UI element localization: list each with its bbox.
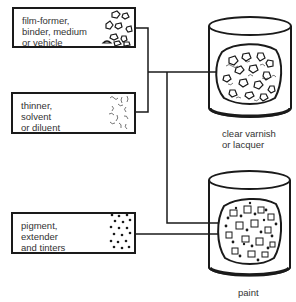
ingredient-box-film-former: film-former, binder, medium or vehicle <box>12 7 136 48</box>
varnish-can-icon <box>209 17 291 117</box>
product-caption-paint: paint <box>238 287 259 298</box>
product-caption-varnish: clear varnish or lacquer <box>222 128 276 150</box>
paint-can-icon <box>209 171 290 276</box>
ingredient-box-pigment: pigment, extender and tinters <box>11 212 136 254</box>
ingredient-label: thinner, solvent or diluent <box>21 100 60 133</box>
ingredient-box-thinner: thinner, solvent or diluent <box>11 92 136 134</box>
connector-lines <box>135 28 232 234</box>
ingredient-label: film-former, binder, medium or vehicle <box>22 15 87 48</box>
ingredient-label: pigment, extender and tinters <box>21 220 65 253</box>
